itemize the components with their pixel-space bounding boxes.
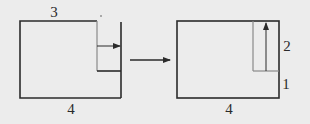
left-figure: 3 4: [20, 4, 121, 117]
right-figure: 2 1 4: [177, 21, 291, 117]
dot-mark: [100, 15, 102, 17]
right-label-1: 1: [282, 76, 290, 92]
left-rectangle: [20, 21, 121, 98]
right-bottom-label: 4: [225, 101, 233, 117]
transformation-diagram: 3 4 2 1 4: [0, 0, 310, 124]
left-bottom-label: 4: [67, 101, 75, 117]
right-label-2: 2: [283, 38, 291, 54]
right-rectangle: [177, 21, 279, 98]
left-top-label: 3: [50, 4, 58, 20]
